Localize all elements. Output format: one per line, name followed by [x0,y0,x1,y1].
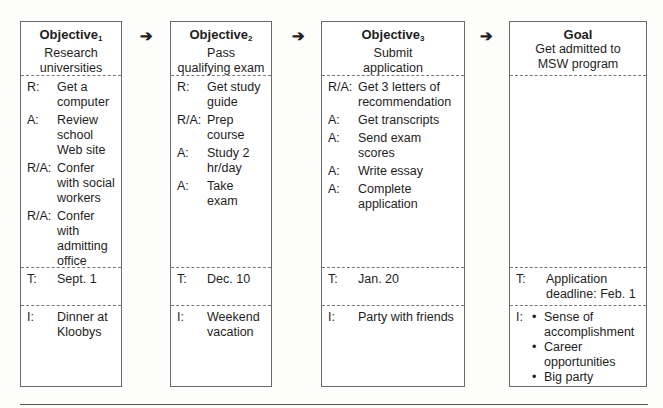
deadline: Sept. 1 [57,272,117,287]
action-row: A:Write essay [328,164,460,179]
deadline: Dec. 10 [207,272,267,287]
objective-3-incentive: I:Party with friends [322,305,464,386]
objective-1-subscript: 1 [98,34,102,43]
incentive: Dinner at Kloobys [57,310,117,340]
arrow-right-icon: ➔ [140,27,153,45]
goal-subtitle-line1: Get admitted to [510,42,646,57]
bottom-rule [20,404,648,405]
goal-incentive: I: Sense of accomplishment Career opport… [510,305,646,386]
objective-2-box: Objective2 Pass qualifying exam R:Get st… [170,21,272,387]
objective-1-header: Objective1 Research universities [21,22,121,75]
objective-1-box: Objective1 Research universities R:Get a… [20,21,122,387]
objective-2-subtitle-line1: Pass [171,46,271,61]
action-row: R:Get a computer [27,80,117,110]
deadline: Application deadline: Feb. 1 [546,272,642,302]
objective-2-subtitle-line2: qualifying exam [171,61,271,76]
objective-2-incentive: I:Weekend vacation [171,305,271,386]
objective-1-title: Objective [40,27,99,42]
objective-1-incentive: I:Dinner at Kloobys [21,305,121,386]
action-row: R/A:Confer with admitting office [27,209,117,269]
objective-3-time: T:Jan. 20 [322,267,464,305]
incentive: Party with friends [358,310,460,325]
incentive-bullet: Career opportunities [544,340,642,370]
objective-1-actions: R:Get a computer A:Review school Web sit… [21,75,121,267]
action-row: R/A:Confer with social workers [27,161,117,206]
objective-2-header: Objective2 Pass qualifying exam [171,22,271,75]
incentive-bullet: Big party [544,370,642,385]
action-row: A:Study 2 hr/day [177,146,267,176]
goal-title: Goal [510,27,646,42]
objective-1-subtitle-line1: Research [21,46,121,61]
action-row: A:Review school Web site [27,113,117,158]
goal-header: Goal Get admitted to MSW program [510,22,646,75]
action-row: R/A:Prep course [177,113,267,143]
action-row: R/A:Get 3 letters of recommendation [328,80,460,110]
objective-3-box: Objective3 Submit application R/A:Get 3 … [321,21,465,387]
objective-3-title: Objective [362,27,421,42]
incentive-bullet: Sense of accomplishment [544,310,642,340]
objective-3-subtitle-line1: Submit [322,46,464,61]
arrow-right-icon: ➔ [480,27,493,45]
goal-time: T:Application deadline: Feb. 1 [510,267,646,305]
arrow-right-icon: ➔ [292,27,305,45]
objective-2-subscript: 2 [248,34,252,43]
deadline: Jan. 20 [358,272,460,287]
goal-subtitle-line2: MSW program [510,57,646,72]
objective-3-actions: R/A:Get 3 letters of recommendation A:Ge… [322,75,464,267]
objective-1-time: T:Sept. 1 [21,267,121,305]
objective-2-time: T:Dec. 10 [171,267,271,305]
objective-3-header: Objective3 Submit application [322,22,464,75]
objective-3-subscript: 3 [420,34,424,43]
goal-box: Goal Get admitted to MSW program T:Appli… [509,21,647,387]
incentive: Weekend vacation [207,310,267,340]
action-row: R:Get study guide [177,80,267,110]
objective-3-subtitle-line2: application [322,61,464,76]
objective-2-actions: R:Get study guide R/A:Prep course A:Stud… [171,75,271,267]
objective-1-subtitle-line2: universities [21,61,121,76]
action-row: A:Take exam [177,179,267,209]
action-row: A:Get transcripts [328,113,460,128]
goal-actions [510,75,646,267]
objective-2-title: Objective [190,27,249,42]
action-row: A:Complete application [328,182,460,212]
incentive-list: Sense of accomplishment Career opportuni… [530,310,642,385]
action-row: A:Send exam scores [328,131,460,161]
